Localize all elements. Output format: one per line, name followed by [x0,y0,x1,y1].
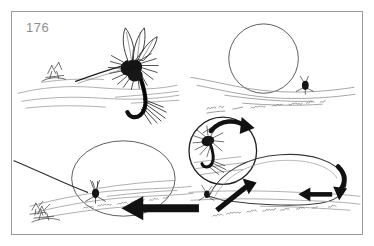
panel-bottom-left-region [12,124,188,235]
page-root: 176 [0,0,374,246]
panel-bottom-right-region [188,124,363,235]
figure-frame: 176 [11,11,363,235]
panel-top-right-region [188,12,363,124]
panel-top-left-region [12,12,188,124]
